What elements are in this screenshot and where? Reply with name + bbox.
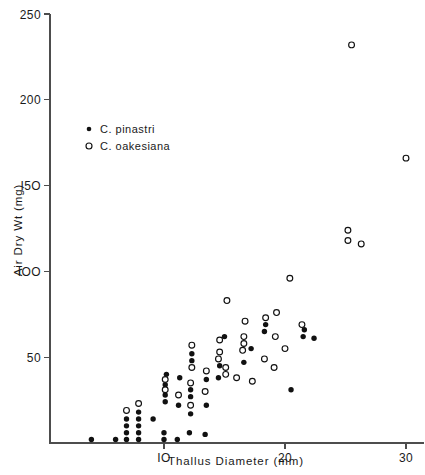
data-point [241, 360, 246, 365]
data-point [263, 315, 269, 321]
legend-label-pinastri: C. pinastri [100, 123, 155, 135]
data-point [274, 310, 280, 316]
data-point [136, 409, 141, 414]
data-point [202, 389, 208, 395]
data-point [242, 318, 248, 324]
data-point [262, 356, 268, 362]
legend-marker-pinastri [87, 127, 92, 132]
legend-marker-oakesiana [86, 143, 92, 149]
data-point [216, 356, 222, 362]
data-point [136, 423, 141, 428]
data-point [224, 298, 230, 304]
data-point [175, 437, 180, 442]
data-point [136, 430, 141, 435]
series-oakesiana [124, 42, 409, 413]
data-point [217, 349, 223, 355]
data-point [272, 334, 278, 340]
data-point [188, 387, 193, 392]
data-point [176, 392, 182, 398]
data-point [241, 334, 247, 340]
data-point [249, 378, 255, 384]
data-point [287, 275, 293, 281]
data-point [349, 42, 355, 48]
data-point [311, 336, 316, 341]
y-tick-label: 50 [27, 351, 41, 365]
y-axis-title: Air Dry Wt (mg) [12, 184, 24, 277]
data-point [241, 341, 247, 347]
axes: 50IOOI5O200250 IO2030 [18, 8, 424, 466]
data-point [188, 380, 194, 386]
data-point [300, 334, 305, 339]
data-point [262, 329, 267, 334]
scatter-plot-figure: 50IOOI5O200250 IO2030 C. pinastri C. oak… [0, 0, 425, 475]
data-point [217, 337, 223, 343]
data-point [176, 403, 181, 408]
data-point [271, 365, 277, 371]
data-point [189, 351, 194, 356]
data-point [162, 387, 168, 393]
data-point [161, 437, 166, 442]
plot-canvas: 50IOOI5O200250 IO2030 C. pinastri C. oak… [0, 0, 425, 475]
y-tick-label: 200 [20, 93, 41, 107]
data-point [204, 403, 209, 408]
data-point [177, 375, 182, 380]
data-point [203, 368, 209, 374]
legend-label-oakesiana: C. oakesiana [100, 140, 171, 152]
series-pinastri [89, 322, 317, 442]
data-point [216, 375, 221, 380]
data-point [223, 371, 229, 377]
data-point [136, 401, 142, 407]
data-point [124, 423, 129, 428]
data-point [217, 363, 222, 368]
data-point [282, 346, 288, 352]
data-point [124, 408, 130, 414]
data-point [345, 238, 351, 244]
data-point [188, 402, 194, 408]
legend: C. pinastri C. oakesiana [86, 123, 171, 152]
data-point [299, 322, 305, 328]
data-point [204, 377, 209, 382]
data-point [189, 342, 195, 348]
data-point [124, 416, 129, 421]
data-point [136, 416, 141, 421]
data-point [189, 365, 195, 371]
data-point [113, 437, 118, 442]
data-point [240, 347, 246, 353]
data-point [358, 241, 364, 247]
x-axis-title: Thallus Diameter (mm) [168, 455, 304, 467]
data-point [202, 432, 207, 437]
data-point [403, 155, 409, 161]
data-point [288, 387, 293, 392]
x-tick-label: 30 [399, 451, 413, 465]
data-point [163, 399, 168, 404]
data-point [189, 358, 194, 363]
data-point [345, 227, 351, 233]
data-point [187, 430, 192, 435]
y-tick-label: 250 [20, 8, 41, 22]
data-point [124, 437, 129, 442]
data-point [136, 437, 141, 442]
data-point [248, 346, 253, 351]
data-point [188, 411, 193, 416]
data-point [188, 394, 193, 399]
data-point [161, 430, 166, 435]
data-point [124, 430, 129, 435]
data-point [150, 416, 155, 421]
data-point [162, 377, 168, 383]
data-point [223, 365, 229, 371]
data-points [89, 42, 409, 442]
data-point [234, 375, 240, 381]
data-point [263, 322, 268, 327]
data-point [89, 437, 94, 442]
